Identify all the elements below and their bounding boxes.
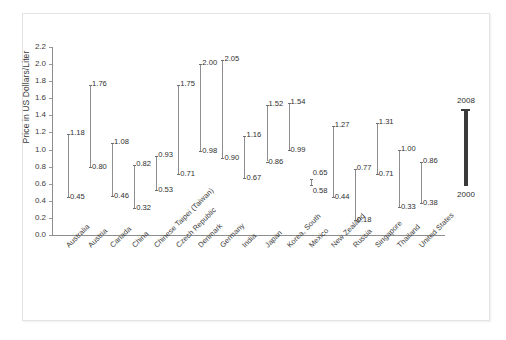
chart-plot-area: Price in US Dollars/Liter 0.00.20.40.60.… (0, 0, 506, 340)
series-connector-line (377, 123, 378, 174)
data-label-2008: 0.86 (423, 157, 438, 165)
data-label-2000: 0.80 (92, 163, 107, 171)
x-axis-category-label: Japan (263, 228, 284, 249)
y-axis-tick-mark (49, 47, 52, 48)
data-label-2008: 0.77 (357, 164, 372, 172)
y-axis-tick-mark (49, 235, 52, 236)
y-axis-tick-mark (49, 81, 52, 82)
data-label-2000: 0.71 (180, 170, 195, 178)
data-label-2008: 1.27 (335, 121, 350, 129)
data-label-2000: 0.71 (379, 170, 394, 178)
series-connector-line (200, 64, 201, 151)
y-axis-tick-label: 0.6 (24, 180, 46, 188)
data-label-2000: 0.99 (291, 146, 306, 154)
y-axis-tick-label: 2.0 (24, 60, 46, 68)
data-label-2008: 1.76 (92, 80, 107, 88)
data-label-2008: 1.31 (379, 118, 394, 126)
y-axis-tick-mark (49, 167, 52, 168)
x-axis-category-label: United States (417, 211, 456, 250)
data-label-2008: 0.82 (136, 160, 151, 168)
data-label-2000: 0.46 (114, 192, 129, 200)
data-label-2008: 1.52 (269, 100, 284, 108)
series-connector-line (134, 165, 135, 208)
series-connector-line (355, 169, 356, 219)
y-axis-tick-mark (49, 201, 52, 202)
data-label-2008: 0.93 (158, 151, 173, 159)
legend-bar-cap-icon (461, 109, 470, 111)
series-connector-line (222, 60, 223, 158)
y-axis-tick-label: 0.2 (24, 214, 46, 222)
y-axis-line (52, 47, 53, 235)
data-label-2008: 1.08 (114, 138, 129, 146)
series-connector-line (421, 162, 422, 203)
data-label-2000: 0.38 (423, 199, 438, 207)
data-label-2000: 0.90 (224, 154, 239, 162)
series-connector-line (90, 85, 91, 167)
data-label-2000: 0.98 (202, 147, 217, 155)
series-connector-line (333, 126, 334, 197)
y-axis-tick-label: 0.0 (24, 231, 46, 239)
data-label-2000: 0.67 (246, 174, 261, 182)
data-label-2008: 1.00 (401, 145, 416, 153)
data-label-2008: 1.18 (70, 129, 85, 137)
y-axis-tick-mark (49, 98, 52, 99)
series-connector-line (112, 143, 113, 196)
x-axis-category-label: China (130, 229, 150, 249)
y-axis-tick-mark (49, 184, 52, 185)
y-axis-tick-mark (49, 218, 52, 219)
y-axis-tick-label: 0.4 (24, 197, 46, 205)
series-connector-line (178, 85, 179, 174)
legend-label-2008: 2008 (448, 96, 484, 105)
y-axis-tick-label: 1.6 (24, 94, 46, 102)
data-label-2008: 2.05 (224, 55, 239, 63)
data-label-2000: 0.58 (313, 187, 328, 195)
series-connector-line (156, 156, 157, 190)
x-axis-category-label: Canada (108, 224, 133, 249)
y-axis-tick-label: 1.0 (24, 146, 46, 154)
data-label-2000: 0.32 (136, 204, 151, 212)
data-label-2000: 0.45 (70, 193, 85, 201)
series-connector-line (399, 150, 400, 207)
data-label-2000: 0.86 (269, 158, 284, 166)
data-label-2008: 1.54 (291, 98, 306, 106)
data-point-2008 (310, 179, 313, 180)
data-label-2008: 2.00 (202, 59, 217, 67)
legend-gradient-bar (464, 110, 468, 186)
series-connector-line (289, 103, 290, 150)
y-axis-tick-mark (49, 64, 52, 65)
y-axis-tick-label: 0.8 (24, 163, 46, 171)
y-axis-tick-mark (49, 150, 52, 151)
y-axis-tick-label: 1.2 (24, 128, 46, 136)
y-axis-tick-label: 1.4 (24, 111, 46, 119)
data-label-2000: 0.33 (401, 203, 416, 211)
data-label-2000: 0.53 (158, 186, 173, 194)
y-axis-tick-label: 2.2 (24, 43, 46, 51)
series-connector-line (68, 134, 69, 196)
series-connector-line (267, 105, 268, 161)
data-label-2008: 1.75 (180, 80, 195, 88)
data-label-2000: 0.44 (335, 193, 350, 201)
y-axis-tick-label: 1.8 (24, 77, 46, 85)
legend-label-2000: 2000 (448, 190, 484, 199)
series-connector-line (244, 136, 245, 178)
y-axis-tick-mark (49, 115, 52, 116)
data-label-2008: 1.16 (246, 131, 261, 139)
y-axis-tick-mark (49, 132, 52, 133)
data-label-2008: 0.65 (313, 169, 328, 177)
